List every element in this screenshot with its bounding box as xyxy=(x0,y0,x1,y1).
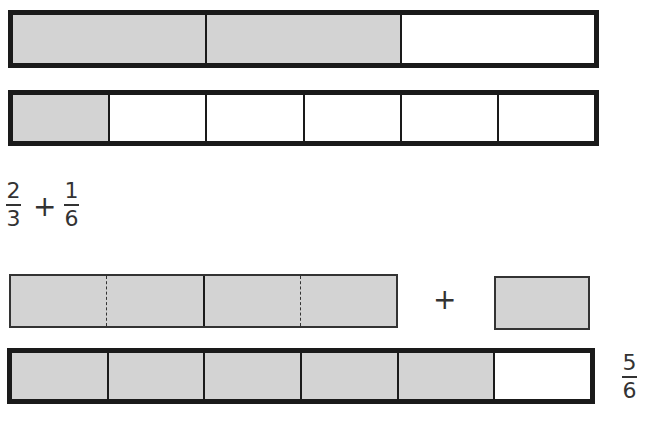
numerator: 1 xyxy=(65,180,79,202)
single-sixth-block xyxy=(494,276,590,330)
thirds-bar xyxy=(8,10,599,68)
numerator: 2 xyxy=(7,180,21,202)
result-cell-4 xyxy=(300,353,397,399)
numerator: 5 xyxy=(623,352,637,374)
regrouped-cell-3 xyxy=(203,276,300,326)
denominator: 3 xyxy=(7,208,21,230)
sixths-cell-5 xyxy=(400,95,497,141)
result-bar xyxy=(7,348,595,404)
regrouped-cell-4 xyxy=(300,276,396,326)
fraction-one-sixth: 1 6 xyxy=(64,180,79,230)
plus-sign: + xyxy=(33,190,56,223)
sixths-cell-3 xyxy=(205,95,302,141)
sixths-cell-6 xyxy=(497,95,594,141)
thirds-cell-3 xyxy=(400,15,594,63)
result-cell-2 xyxy=(107,353,204,399)
fraction-five-sixths: 5 6 xyxy=(622,352,637,402)
denominator: 6 xyxy=(623,380,637,402)
sixths-cell-2 xyxy=(108,95,205,141)
plus-sign-2: + xyxy=(433,283,456,316)
result-cell-6 xyxy=(493,353,590,399)
sixths-bar xyxy=(8,90,599,146)
regrouped-cell-2 xyxy=(106,276,202,326)
regrouped-bar xyxy=(9,274,398,328)
fraction-two-thirds: 2 3 xyxy=(6,180,21,230)
sixths-cell-4 xyxy=(303,95,400,141)
result-cell-1 xyxy=(12,353,107,399)
thirds-cell-2 xyxy=(205,15,399,63)
result-cell-5 xyxy=(397,353,494,399)
result-cell-3 xyxy=(203,353,300,399)
sixths-cell-1 xyxy=(13,95,108,141)
regrouped-cell-1 xyxy=(11,276,106,326)
thirds-cell-1 xyxy=(13,15,205,63)
denominator: 6 xyxy=(65,208,79,230)
